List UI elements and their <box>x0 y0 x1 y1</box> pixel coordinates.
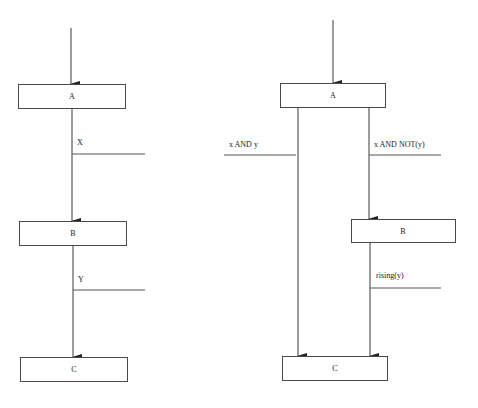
left-state-c-label: C <box>71 365 76 374</box>
left-guard-y-label: Y <box>78 275 84 284</box>
right-state-a[interactable]: A <box>281 84 386 108</box>
left-state-b-label: B <box>70 229 75 238</box>
right-state-b-label: B <box>400 227 405 236</box>
sfc-diagrams: A X B Y C A x AND y <box>0 0 478 408</box>
right-diagram: A x AND y x AND NOT(y) B rising(y) C <box>224 20 456 381</box>
left-state-a[interactable]: A <box>19 85 126 109</box>
left-diagram: A X B Y C <box>19 28 146 382</box>
right-state-a-label: A <box>330 91 336 100</box>
right-guard-xandy-label: x AND y <box>229 140 258 149</box>
right-guard-rising-label: rising(y) <box>376 271 404 280</box>
right-state-c[interactable]: C <box>283 357 388 381</box>
left-state-b[interactable]: B <box>20 222 127 246</box>
right-state-b[interactable]: B <box>352 220 456 243</box>
right-guard-xandnoty-label: x AND NOT(y) <box>374 140 425 149</box>
right-state-c-label: C <box>332 364 337 373</box>
left-state-a-label: A <box>69 92 75 101</box>
left-guard-x-label: X <box>77 138 83 147</box>
left-state-c[interactable]: C <box>21 358 128 382</box>
